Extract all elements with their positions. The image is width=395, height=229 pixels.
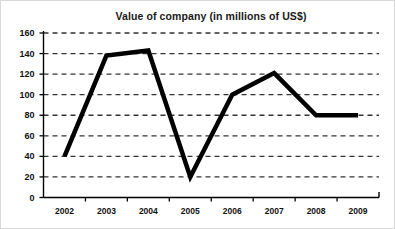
x-axis-tick-label: 2005 — [181, 206, 200, 216]
x-axis-tick-label: 2004 — [139, 206, 158, 216]
x-axis-tick-label: 2007 — [265, 206, 284, 216]
data-series-line — [64, 50, 358, 176]
x-axis-tick-label: 2008 — [307, 206, 326, 216]
y-axis-tick-label: 40 — [5, 151, 35, 161]
chart-screenshot: Value of company (in millions of US$) 02… — [0, 0, 395, 229]
y-axis-tick-label: 120 — [5, 69, 35, 79]
x-axis-tick-label: 2009 — [349, 206, 368, 216]
x-axis-tick-label: 2006 — [223, 206, 242, 216]
y-axis-tick-label: 140 — [5, 49, 35, 59]
chart-plot-area — [1, 1, 395, 229]
x-axis-tick-label: 2002 — [55, 206, 74, 216]
x-axis-tick-label: 2003 — [97, 206, 116, 216]
y-axis-tick-label: 60 — [5, 131, 35, 141]
y-axis-tick-label: 20 — [5, 172, 35, 182]
y-axis-tick-label: 0 — [5, 193, 35, 203]
y-axis-tick-label: 100 — [5, 90, 35, 100]
gridlines-group — [44, 33, 380, 177]
y-axis-tick-label: 160 — [5, 28, 35, 38]
y-axis-tick-label: 80 — [5, 110, 35, 120]
line-chart-figure: Value of company (in millions of US$) 02… — [1, 1, 395, 229]
